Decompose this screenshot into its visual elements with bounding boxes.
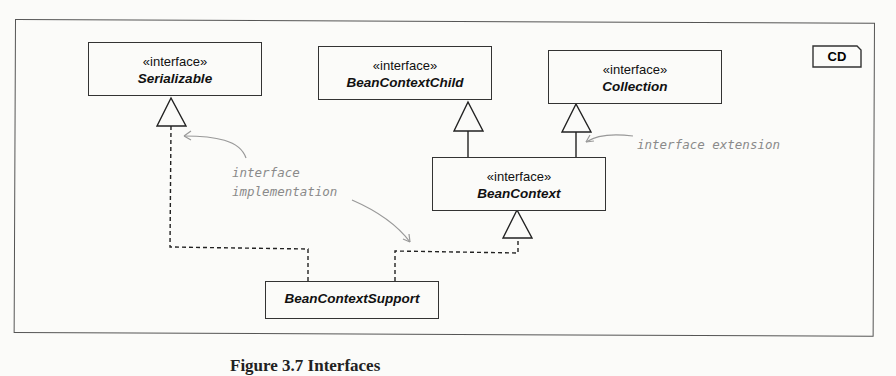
class-name: Serializable	[89, 70, 261, 88]
class-name: BeanContext	[433, 185, 605, 203]
realization-arrowhead-beancontext	[503, 210, 532, 238]
class-beancontext[interactable]: «interface» BeanContext	[432, 157, 606, 211]
class-name: BeanContextChild	[319, 74, 491, 92]
class-serializable[interactable]: «interface» Serializable	[88, 42, 262, 96]
generalization-arrowhead-collection	[562, 104, 591, 132]
note-interface-implementation: interface implementation	[232, 163, 337, 201]
stereotype-label: «interface»	[89, 53, 261, 70]
generalization-arrowhead-beancontextchild	[454, 102, 483, 131]
realization-arrowhead-serializable	[157, 98, 186, 126]
note-line: interface	[232, 163, 337, 182]
class-name: BeanContextSupport	[266, 290, 438, 308]
note-line: implementation	[232, 182, 337, 201]
class-beancontextchild[interactable]: «interface» BeanContextChild	[318, 46, 492, 100]
stereotype-label: «interface»	[319, 57, 491, 74]
frame-tag: CD	[813, 46, 861, 67]
note-interface-extension: interface extension	[637, 135, 780, 154]
stereotype-label: «interface»	[549, 61, 721, 78]
class-name: Collection	[549, 78, 721, 96]
class-beancontextsupport[interactable]: BeanContextSupport	[265, 281, 439, 319]
class-collection[interactable]: «interface» Collection	[548, 50, 722, 104]
stereotype-label: «interface»	[433, 168, 605, 185]
figure-caption: Figure 3.7 Interfaces	[230, 356, 380, 376]
